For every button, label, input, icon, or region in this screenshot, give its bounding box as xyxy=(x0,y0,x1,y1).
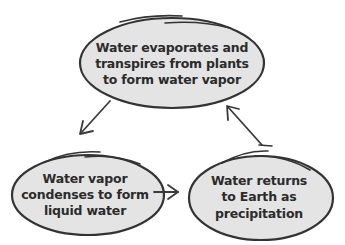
node-condensation-line-2: condenses to form xyxy=(21,187,149,202)
arrow-precipitation-to-evaporation xyxy=(227,106,272,146)
node-condensation: Water vapor condenses to form liquid wat… xyxy=(12,152,164,235)
node-evaporation-line-3: to form water vapor xyxy=(103,72,242,87)
node-condensation-line-3: liquid water xyxy=(44,203,127,218)
water-cycle-diagram: Water evaporates and transpires from pla… xyxy=(0,0,345,245)
node-precipitation-line-2: to Earth as xyxy=(222,189,297,204)
arrow-evaporation-to-condensation xyxy=(80,101,110,134)
node-condensation-line-1: Water vapor xyxy=(43,171,129,186)
sketch-stroke xyxy=(259,145,272,146)
arrow-line xyxy=(81,101,110,133)
node-evaporation: Water evaporates and transpires from pla… xyxy=(80,16,264,108)
node-precipitation-line-3: precipitation xyxy=(215,206,303,221)
node-evaporation-line-2: transpires from plants xyxy=(95,56,249,71)
node-precipitation-line-1: Water returns xyxy=(211,173,307,188)
arrow-line xyxy=(228,107,262,145)
node-precipitation: Water returns to Earth as precipitation xyxy=(189,151,333,240)
node-evaporation-line-1: Water evaporates and xyxy=(96,40,248,55)
